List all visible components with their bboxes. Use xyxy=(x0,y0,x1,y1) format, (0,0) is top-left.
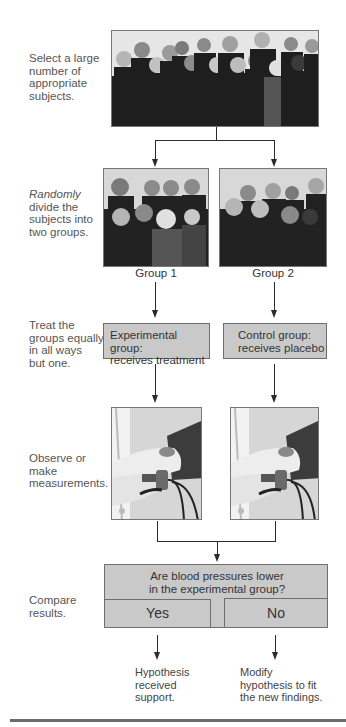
control-line: Control group: xyxy=(238,329,326,342)
step-line: two groups. xyxy=(29,226,93,239)
outcome-line: received xyxy=(135,679,189,692)
step-line: results. xyxy=(29,607,76,620)
step-label-select: Select a large number of appropriate sub… xyxy=(29,52,99,102)
outcome-line: the new findings. xyxy=(240,691,323,704)
split-connector-bar xyxy=(155,140,275,141)
crowd-photo xyxy=(111,30,319,127)
step-line: but one. xyxy=(29,357,104,370)
outcome-yes: Hypothesis received support. xyxy=(135,666,189,704)
split-connector-left xyxy=(155,140,156,160)
control-line: receives placebo xyxy=(238,342,326,355)
step-line: subjects into xyxy=(29,213,93,226)
emphasis-randomly: Randomly xyxy=(29,188,81,200)
step-line: in all ways xyxy=(29,344,104,357)
arrow-down-icon xyxy=(271,159,277,167)
merge-connector-right xyxy=(275,521,276,542)
no-box: No xyxy=(224,598,328,628)
split-connector-stem xyxy=(216,127,217,141)
outcome-no: Modify hypothesis to fit the new finding… xyxy=(240,666,323,704)
yes-label: Yes xyxy=(146,605,169,621)
merge-connector-left xyxy=(157,521,158,542)
step-line: Observe or xyxy=(29,452,108,465)
step-line: appropriate xyxy=(29,77,99,90)
group-2-photo xyxy=(219,168,327,267)
arrow-down-icon xyxy=(154,652,160,660)
arrow-down-icon xyxy=(152,395,158,403)
group-1-photo xyxy=(103,168,209,267)
step-line: divide the xyxy=(29,201,93,214)
arrow-down-icon xyxy=(152,310,158,318)
step-line: Treat the xyxy=(29,319,104,332)
blood-pressure-photo-right xyxy=(230,407,319,520)
step-label-compare: Compare results. xyxy=(29,594,76,619)
group-2-label: Group 2 xyxy=(223,267,323,279)
arrow-down-icon xyxy=(271,310,277,318)
step-line: number of xyxy=(29,65,99,78)
outcome-line: support. xyxy=(135,691,189,704)
question-line: Are blood pressures lower xyxy=(105,570,329,583)
outcome-line: Modify xyxy=(240,666,323,679)
arrow-down-icon xyxy=(152,159,158,167)
step-line: make xyxy=(29,465,108,478)
question-text: Are blood pressures lower in the experim… xyxy=(105,570,329,595)
arrow-no-shaft xyxy=(275,635,276,653)
bottom-rule xyxy=(10,719,346,722)
control-group-box: Control group: receives placebo xyxy=(223,323,327,359)
arrow-ctrl-shaft xyxy=(274,364,275,396)
question-line: in the experimental group? xyxy=(105,583,329,596)
arrow-group1-shaft xyxy=(155,282,156,311)
arrow-down-icon xyxy=(272,652,278,660)
experimental-line: receives treatment xyxy=(110,354,209,367)
split-connector-right xyxy=(274,140,275,160)
group-1-label: Group 1 xyxy=(106,267,206,279)
experimental-line: Experimental group: xyxy=(110,329,209,354)
step-label-divide: Randomly divide the subjects into two gr… xyxy=(29,188,93,238)
blood-pressure-photo-left xyxy=(111,407,202,520)
step-line: Select a large xyxy=(29,52,99,65)
step-label-treat: Treat the groups equally in all ways but… xyxy=(29,319,104,369)
step-line: measurements. xyxy=(29,477,108,490)
yes-box: Yes xyxy=(104,599,211,628)
experimental-group-box: Experimental group: receives treatment xyxy=(103,323,210,359)
step-line: groups equally xyxy=(29,332,104,345)
arrow-down-icon xyxy=(271,395,277,403)
arrow-exp-shaft xyxy=(155,364,156,396)
step-line: Compare xyxy=(29,594,76,607)
step-label-observe: Observe or make measurements. xyxy=(29,452,108,490)
arrow-down-icon xyxy=(214,554,220,562)
arrow-yes-shaft xyxy=(157,635,158,653)
step-line: subjects. xyxy=(29,90,99,103)
arrow-group2-shaft xyxy=(274,282,275,311)
outcome-line: hypothesis to fit xyxy=(240,679,323,692)
outcome-line: Hypothesis xyxy=(135,666,189,679)
merge-connector-stem xyxy=(217,541,218,555)
no-label: No xyxy=(267,605,285,621)
